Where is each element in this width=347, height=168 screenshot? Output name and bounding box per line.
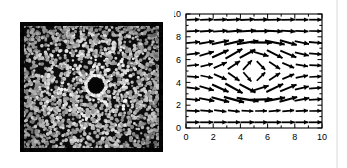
vector-arrow-head (277, 120, 282, 125)
vector-arrow-head (209, 17, 214, 22)
x-tick-label: 2 (211, 132, 216, 142)
vector-arrow-head (195, 17, 200, 22)
y-tick-label: 10 (174, 9, 181, 19)
x-tick-label: 4 (238, 132, 243, 142)
vector-arrow-head (208, 109, 212, 113)
x-tick-label: 10 (317, 132, 327, 142)
vector-arrow-head (195, 120, 199, 125)
vector-arrow-head (318, 120, 322, 125)
vector-arrow-head (250, 120, 255, 125)
vector-arrow-head (290, 29, 295, 34)
vector-arrow-head (195, 29, 200, 34)
vector-arrow-head (209, 29, 214, 34)
vector-arrow-head (317, 109, 321, 113)
quiver-plot-svg: 02468100246810 (174, 0, 347, 168)
y-tick-label: 4 (176, 78, 181, 88)
y-tick-label: 8 (176, 32, 181, 42)
y-axis-tick-labels: 0246810 (174, 9, 181, 133)
vector-arrow-head (317, 17, 321, 21)
vector-arrow-head (317, 74, 321, 78)
y-tick-label: 6 (176, 55, 181, 65)
vector-arrow-head (317, 29, 321, 33)
x-axis-tick-labels: 0246810 (183, 132, 327, 142)
y-tick-label: 0 (176, 123, 181, 133)
vector-arrow-head (304, 109, 308, 113)
vector-arrow-head (209, 120, 213, 125)
vector-arrow-head (195, 63, 199, 67)
vector-arrow-head (304, 120, 308, 125)
vector-arrow-head (317, 52, 321, 56)
vector-arrow-head (276, 109, 280, 113)
vector-arrow-head (222, 120, 226, 125)
vector-arrow-head (250, 17, 255, 22)
vector-arrow-head (317, 97, 322, 102)
vector-arrow-head (222, 17, 227, 22)
vector-arrow-head (236, 120, 240, 125)
x-tick-label: 8 (292, 132, 297, 142)
vector-arrow-head (317, 63, 321, 67)
vector-arrow-head (290, 120, 294, 125)
vector-arrow-head (290, 109, 294, 113)
figure-root: 02468100246810 (0, 0, 347, 168)
vector-arrow-head (195, 75, 199, 79)
micrograph-panel (0, 0, 174, 168)
vector-arrow-head (304, 29, 309, 34)
vector-arrow-head (317, 40, 322, 45)
vector-arrow-head (195, 109, 200, 114)
vector-arrow-head (263, 109, 267, 113)
micrograph-canvas (20, 22, 163, 152)
quiver-plot-panel: 02468100246810 (174, 0, 347, 168)
vector-arrow-head (317, 86, 321, 90)
y-tick-label: 2 (176, 100, 181, 110)
vector-arrow-head (249, 109, 253, 113)
x-tick-label: 6 (265, 132, 270, 142)
x-tick-label: 0 (183, 132, 188, 142)
vector-field (186, 17, 322, 125)
micrograph-image (20, 22, 163, 152)
vector-arrow-head (277, 17, 282, 22)
vector-arrow-head (304, 17, 308, 22)
